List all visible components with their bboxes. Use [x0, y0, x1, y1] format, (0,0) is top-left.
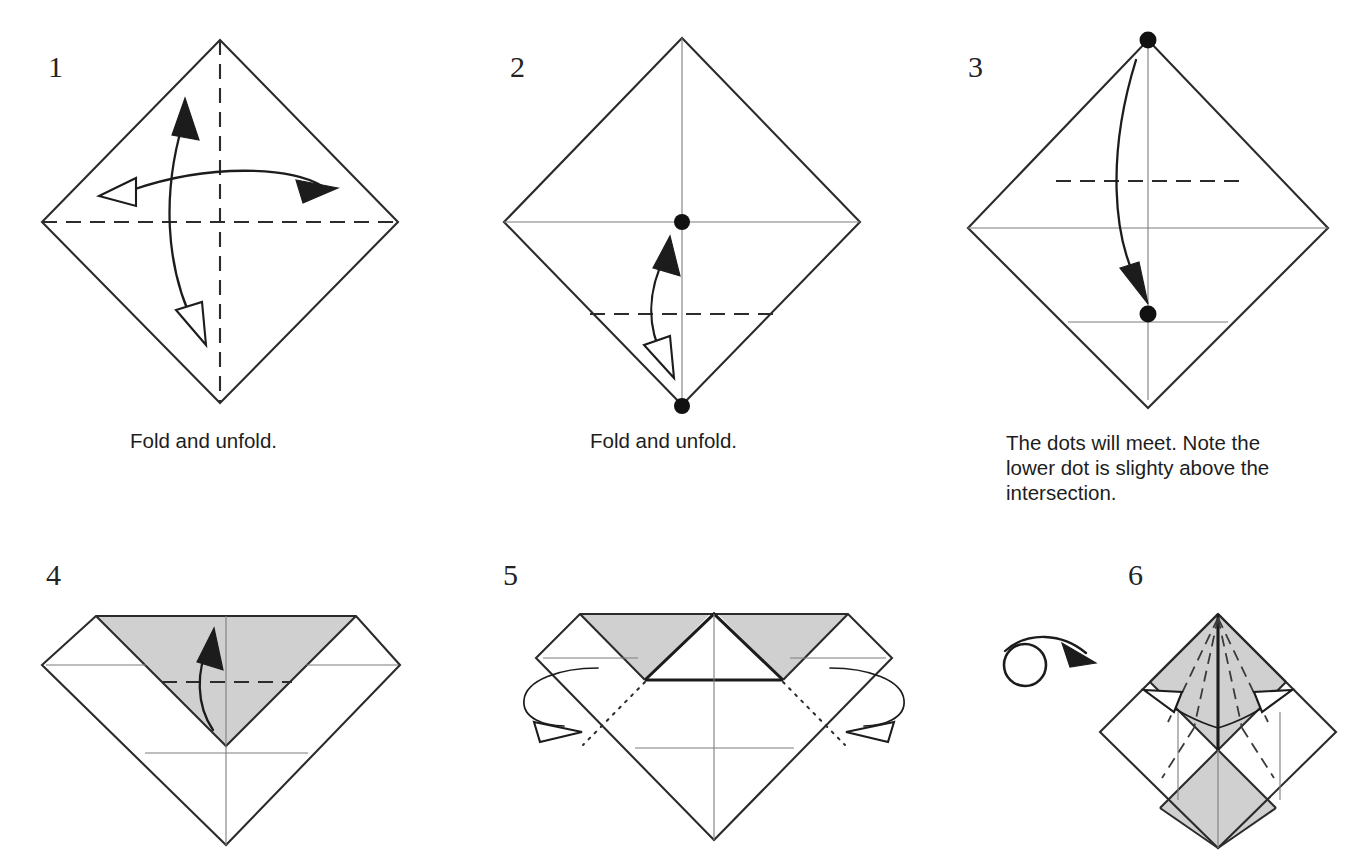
fold-arrow-head-up	[653, 236, 680, 276]
horizontal-fold-arrow-head-right	[296, 180, 338, 203]
right-flap-shading	[718, 614, 848, 680]
step-3-caption: The dots will meet. Note the lower dot i…	[1006, 430, 1306, 505]
step-3-figure	[920, 0, 1360, 440]
fold-over-arrow-head	[1120, 262, 1148, 304]
step-1-caption: Fold and unfold.	[130, 428, 390, 453]
step-4-figure	[0, 540, 440, 860]
left-wrap-arrow-shaft	[524, 668, 598, 726]
step-6-figure	[1090, 600, 1350, 860]
step-2-caption: Fold and unfold.	[590, 428, 850, 453]
center-dot	[674, 214, 690, 230]
fan-crease-lower-right	[1242, 728, 1274, 778]
left-dotted-crease	[583, 682, 645, 745]
right-dotted-crease	[783, 682, 845, 745]
lower-target-dot	[1140, 306, 1157, 323]
left-pull-arrow-head	[1144, 690, 1182, 712]
step-5-figure	[460, 540, 1020, 860]
vertical-fold-arrow-shaft	[170, 110, 197, 330]
horizontal-fold-arrow-shaft	[132, 171, 322, 190]
step-1-figure	[0, 0, 440, 440]
step-number-6: 6	[1128, 560, 1143, 590]
turn-over-circle	[1004, 644, 1046, 686]
vertical-fold-arrow-head-down	[176, 302, 206, 345]
horizontal-fold-arrow-head-left	[99, 178, 136, 206]
instruction-sheet: 1 Fold and unfold. 2 Fold and unfold. 3	[0, 0, 1360, 860]
bottom-vertex-dot	[674, 398, 690, 414]
vertical-fold-arrow-head-up	[172, 98, 199, 140]
top-vertex-dot	[1140, 32, 1157, 49]
right-wrap-arrow-shaft	[830, 668, 904, 726]
right-pull-arrow-head	[1254, 690, 1292, 712]
fold-over-arrow-shaft	[1117, 60, 1143, 292]
left-flap-shading	[580, 614, 710, 680]
step-2-figure	[460, 0, 920, 440]
